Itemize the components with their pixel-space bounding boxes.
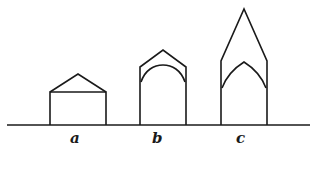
figure-c-outer [221,9,267,125]
figure-c-pointed-arch [222,62,266,88]
figure-c [221,9,267,125]
label-c: c [236,131,245,146]
label-a: a [70,131,80,146]
figure-a-roof [50,74,106,92]
figure-b-round-arch [141,65,185,82]
figure-a-walls [50,92,106,125]
figure-a [50,74,106,125]
figure-b [140,50,186,125]
label-b: b [152,131,163,146]
figure-b-outer [140,50,186,125]
